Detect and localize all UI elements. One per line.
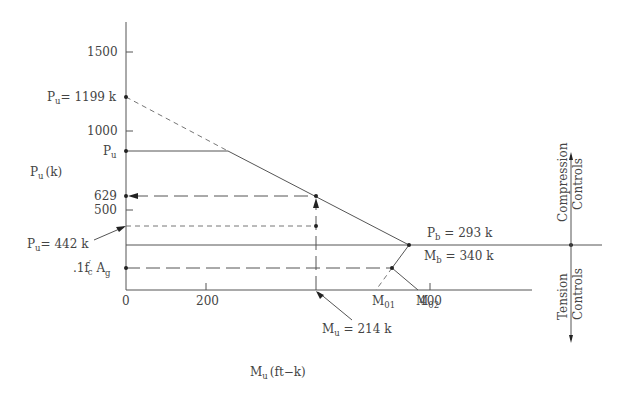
y-tick-label-1500: 1500 [87, 45, 118, 59]
m02-branch [392, 268, 418, 290]
p629-point [124, 194, 128, 198]
arrow-down-icon [569, 335, 573, 343]
pu1199-point [124, 95, 128, 99]
interaction-line [228, 151, 409, 245]
design-point [314, 194, 318, 198]
label-pu-442: Pu= 442 k [27, 237, 89, 253]
legend-tension-controls: Controls [571, 268, 585, 320]
label-fc-ag: .1f′c Ag [73, 259, 111, 278]
legend-compression-controls: Controls [571, 158, 585, 210]
y-axis-title: Pu(k) [30, 165, 62, 181]
p442-point [314, 224, 318, 228]
tension-branch [392, 245, 409, 268]
arrow-up-icon [313, 198, 319, 208]
label-pu: Pu [103, 144, 117, 160]
legend-tension: Tension [556, 273, 570, 320]
x-axis-title: Mu(ft−k) [250, 365, 306, 381]
arrow-icon [116, 226, 126, 232]
label-mu-214: Mu = 214 k [322, 322, 392, 338]
m-junction-point [390, 266, 394, 270]
label-m01: M01 [372, 294, 395, 310]
arrow-left-icon [128, 193, 138, 199]
label-pu-1199: Pu= 1199 k [47, 90, 117, 106]
label-pb: Pb = 293 k [427, 226, 493, 242]
interaction-diagram: 1500 1000 629 500 0 200 400 Pu= 1199 k P… [0, 0, 626, 395]
arrow-icon [316, 291, 324, 299]
y-tick-label-629: 629 [94, 189, 117, 203]
mu214-leader [318, 292, 352, 320]
label-mb: Mb = 340 k [424, 249, 494, 265]
pu-point [124, 149, 128, 153]
legend-compression: Compression [556, 142, 570, 222]
interaction-line-dashed [126, 97, 228, 151]
x-tick-label-0: 0 [122, 294, 130, 308]
y-tick-label-500: 500 [94, 203, 117, 217]
fcag-point [124, 266, 128, 270]
m01-dashed-branch [376, 268, 392, 290]
x-tick-label-200: 200 [196, 294, 219, 308]
y-tick-label-1000: 1000 [87, 124, 118, 138]
balance-point [407, 243, 411, 247]
